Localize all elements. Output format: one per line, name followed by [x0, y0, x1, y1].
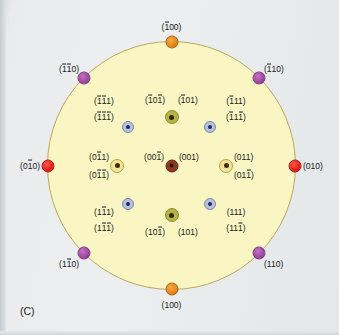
label-center-001-right: (001) [179, 153, 199, 162]
label-lowerright-111-a: (111) [227, 208, 246, 217]
figure-caption: (C) [20, 305, 35, 317]
digit: 1 [246, 152, 251, 162]
digit: 1 [106, 207, 111, 217]
label-bottom-101-left: (101) [145, 228, 165, 237]
digit: 1 [67, 65, 72, 74]
label-lowerright-111-b: (111) [226, 224, 245, 233]
pole-top-101[interactable] [165, 110, 179, 124]
pole-upperright-111[interactable] [204, 121, 216, 133]
digit: 1 [106, 224, 111, 233]
digit: 1 [238, 224, 243, 233]
digit: 0 [71, 259, 76, 269]
digit: 1 [191, 152, 196, 162]
label-top-101-right: (101) [178, 96, 198, 105]
pole-bottom-101[interactable] [165, 208, 179, 222]
digit: 1 [67, 260, 72, 269]
digit: 1 [190, 227, 195, 237]
pole-bottomleft-110[interactable] [78, 247, 91, 260]
digit: 1 [102, 208, 107, 217]
label-top-101-left: (101) [145, 96, 165, 105]
digit: 1 [181, 96, 186, 105]
label-bottom-101-right: (101) [178, 228, 198, 237]
label-topright-110: (110) [264, 65, 284, 74]
digit: 1 [157, 228, 162, 237]
digit: 1 [157, 96, 162, 105]
digit: 1 [106, 113, 111, 122]
label-left-011-b: (011) [89, 171, 109, 180]
digit: 0 [71, 64, 76, 74]
label-right-011-a: (011) [234, 153, 253, 162]
pole-right-011[interactable] [219, 159, 233, 173]
digit: 1 [238, 96, 243, 106]
label-lowerleft-111-a: (111) [94, 208, 114, 217]
label-lowerleft-111-b: (111) [94, 224, 114, 233]
label-right-011-b: (011) [234, 171, 254, 180]
digit: 1 [238, 207, 243, 217]
digit: 1 [101, 171, 106, 180]
digit: 0 [276, 64, 281, 74]
digit: 1 [28, 161, 33, 170]
label-bottomright-110: (110) [264, 260, 283, 269]
page-bottom-edge [0, 331, 339, 335]
digit: 1 [97, 153, 102, 162]
digit: 0 [174, 22, 179, 32]
digit: 1 [267, 65, 272, 74]
digit: 1 [148, 96, 153, 105]
label-upperright-111-b: (111) [226, 113, 246, 122]
label-left-011-a: (011) [89, 153, 109, 162]
label-bottomleft-110: (110) [59, 260, 79, 269]
stereographic-projection-figure: (100) (100) (010) (010) (110) (110) (110… [0, 0, 339, 335]
label-topleft-110: (110) [59, 65, 79, 74]
digit: 1 [229, 113, 234, 122]
pole-left-011[interactable] [110, 159, 124, 173]
digit: 0 [32, 160, 37, 170]
label-left-010: (010) [20, 161, 40, 170]
label-right-010: (010) [303, 161, 323, 170]
digit: 1 [101, 152, 106, 162]
label-top-100: (100) [162, 23, 182, 32]
pole-center-001[interactable] [165, 159, 178, 172]
pole-lowerleft-111[interactable] [122, 198, 134, 210]
label-upperright-111-a: (111) [226, 97, 245, 106]
digit: 0 [315, 160, 320, 170]
digit: 1 [238, 113, 243, 122]
pole-right-010[interactable] [289, 159, 302, 172]
label-upperleft-111-b: (111) [94, 113, 114, 122]
digit: 1 [102, 97, 107, 106]
label-center-001-left: (001) [144, 153, 164, 162]
pole-top-100[interactable] [165, 36, 178, 49]
pole-lowerright-111[interactable] [204, 198, 216, 210]
pole-topleft-110[interactable] [78, 72, 91, 85]
digit: 1 [164, 23, 169, 32]
digit: 1 [246, 171, 251, 180]
digit: 1 [190, 95, 195, 105]
digit: 1 [229, 97, 234, 106]
pole-upperleft-111[interactable] [122, 121, 134, 133]
digit: 1 [106, 96, 111, 106]
pole-left-010[interactable] [42, 159, 55, 172]
label-upperleft-111-a: (111) [94, 97, 114, 106]
digit: 1 [156, 153, 161, 162]
label-bottom-100: (100) [162, 301, 182, 310]
page-left-edge [0, 0, 6, 335]
pole-bottom-100[interactable] [165, 283, 178, 296]
digit: 0 [276, 259, 281, 269]
digit: 0 [174, 300, 179, 310]
